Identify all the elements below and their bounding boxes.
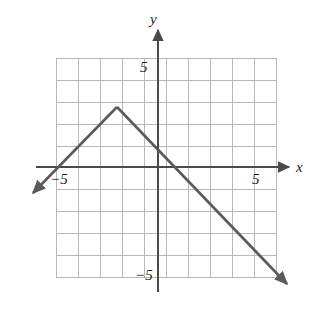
x-axis-label: x bbox=[296, 160, 303, 175]
axis-lines bbox=[36, 30, 289, 292]
x-axis-tick-label-negative-5: −5 bbox=[50, 172, 68, 187]
y-axis-label: y bbox=[150, 12, 157, 27]
coordinate-plane-svg bbox=[0, 0, 316, 315]
curve-left-branch bbox=[33, 107, 117, 193]
y-axis-tick-label-5: 5 bbox=[140, 60, 148, 75]
graph-figure: y x 5 −5 −5 5 bbox=[0, 0, 316, 315]
x-axis-tick-digit-left: 5 bbox=[60, 171, 68, 187]
function-curve bbox=[33, 107, 287, 284]
y-axis-tick-label-negative-5: −5 bbox=[135, 268, 153, 283]
x-axis-tick-label-5: 5 bbox=[252, 172, 260, 187]
y-axis-tick-digit: 5 bbox=[145, 267, 153, 283]
curve-right-branch bbox=[117, 107, 287, 284]
